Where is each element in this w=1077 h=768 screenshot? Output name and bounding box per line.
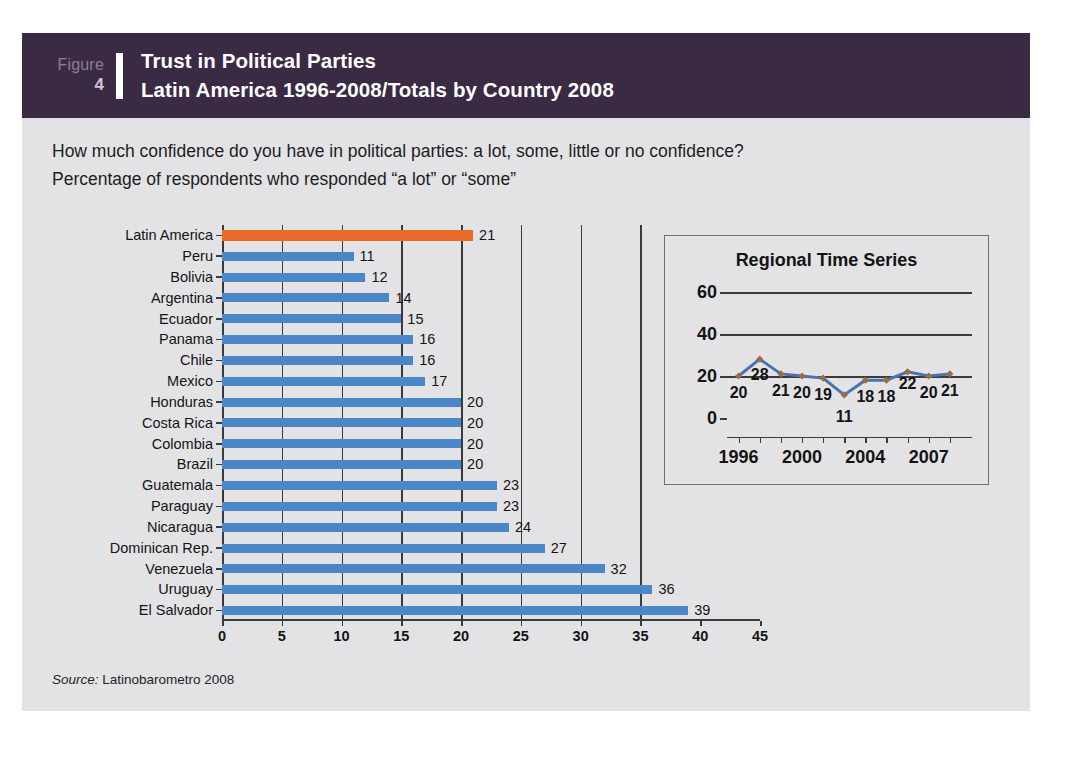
bar-row[interactable]: Venezuela32 xyxy=(222,558,760,579)
y-tick-mark xyxy=(216,318,222,320)
bar-row[interactable]: Paraguay23 xyxy=(222,496,760,517)
inset-x-tick-mark xyxy=(929,437,930,443)
bar-category-label: Guatemala xyxy=(142,478,213,493)
bar[interactable] xyxy=(222,460,461,469)
y-tick-mark xyxy=(216,255,222,257)
inset-y-tick-mark xyxy=(720,376,727,378)
inset-value-label: 18 xyxy=(856,389,874,405)
bar[interactable] xyxy=(222,585,652,594)
bar[interactable] xyxy=(222,335,413,344)
inset-x-axis: 1996200020042007 xyxy=(727,437,972,439)
bar-category-label: Venezuela xyxy=(145,562,213,577)
x-tick-label: 20 xyxy=(453,628,469,644)
bar-value-label: 20 xyxy=(467,457,483,472)
inset-data-point-marker[interactable] xyxy=(798,372,805,379)
x-tick-label: 35 xyxy=(632,628,648,644)
bar[interactable] xyxy=(222,252,354,261)
bar-category-label: Panama xyxy=(159,332,213,347)
figure-title-line-1: Trust in Political Parties xyxy=(141,47,614,75)
inset-x-tick-label: 2000 xyxy=(782,447,822,468)
bar-highlight[interactable] xyxy=(222,230,473,241)
bar[interactable] xyxy=(222,377,425,386)
bar-value-label: 24 xyxy=(515,520,531,535)
x-tick-label: 0 xyxy=(218,628,226,644)
x-tick-label: 15 xyxy=(393,628,409,644)
bar-value-label: 16 xyxy=(419,353,435,368)
bar-category-label: Peru xyxy=(182,249,213,264)
bar[interactable] xyxy=(222,314,401,323)
inset-y-tick-label: 20 xyxy=(697,367,717,385)
bar[interactable] xyxy=(222,544,545,553)
y-tick-mark xyxy=(216,589,222,591)
source-note: Source: Latinobarometro 2008 xyxy=(52,672,234,687)
x-tick-mark xyxy=(222,621,224,626)
inset-y-tick-label: 40 xyxy=(697,325,717,343)
bar[interactable] xyxy=(222,606,688,615)
bar-value-label: 39 xyxy=(694,603,710,618)
inset-x-tick-label: 2007 xyxy=(909,447,949,468)
bar-category-label: Bolivia xyxy=(170,270,213,285)
bar-row[interactable]: Uruguay36 xyxy=(222,579,760,600)
x-tick-mark xyxy=(760,621,762,626)
regional-time-series-chart: Regional Time Series 0204060 20282120191… xyxy=(664,235,989,485)
inset-value-label: 28 xyxy=(751,367,769,383)
inset-x-tick-mark xyxy=(760,437,761,443)
bar[interactable] xyxy=(222,481,497,490)
inset-y-tick-label: 0 xyxy=(707,409,717,427)
inset-value-label: 20 xyxy=(793,385,811,401)
bar[interactable] xyxy=(222,523,509,532)
inset-x-tick-mark xyxy=(781,437,782,443)
figure-header: Figure 4 Trust in Political Parties Lati… xyxy=(22,33,1030,118)
bar[interactable] xyxy=(222,273,365,282)
bar-category-label: Mexico xyxy=(167,374,213,389)
inset-value-label: 21 xyxy=(772,383,790,399)
bar-row[interactable]: Nicaragua24 xyxy=(222,517,760,538)
y-tick-mark xyxy=(216,422,222,424)
bar-category-label: Chile xyxy=(180,353,213,368)
bar-value-label: 20 xyxy=(467,416,483,431)
inset-plot-area: 0204060 2028212019111818222021 199620002… xyxy=(727,292,972,418)
bar-value-label: 17 xyxy=(431,374,447,389)
bar-value-label: 32 xyxy=(611,562,627,577)
figure-title-line-2: Latin America 1996-2008/Totals by Countr… xyxy=(141,76,614,104)
bar[interactable] xyxy=(222,418,461,427)
inset-chart-title: Regional Time Series xyxy=(665,250,988,271)
inset-data-point-marker[interactable] xyxy=(925,372,932,379)
inset-value-label: 19 xyxy=(814,387,832,403)
bar[interactable] xyxy=(222,502,497,511)
bar-category-label: Brazil xyxy=(177,457,213,472)
bar[interactable] xyxy=(222,564,605,573)
bar-value-label: 36 xyxy=(658,582,674,597)
bar-category-label: Honduras xyxy=(150,395,213,410)
bar-category-label: Paraguay xyxy=(151,499,213,514)
x-tick-label: 5 xyxy=(278,628,286,644)
y-tick-mark xyxy=(216,506,222,508)
bar-row[interactable]: Dominican Rep.27 xyxy=(222,538,760,559)
bar-row[interactable]: El Salvador39 xyxy=(222,600,760,621)
x-tick-mark xyxy=(640,621,642,626)
inset-x-tick-mark xyxy=(739,437,740,443)
inset-data-point-marker[interactable] xyxy=(946,370,953,377)
bar[interactable] xyxy=(222,439,461,448)
figure-title: Trust in Political Parties Latin America… xyxy=(141,47,614,104)
source-label: Source: xyxy=(52,672,99,687)
bar-value-label: 20 xyxy=(467,437,483,452)
bar[interactable] xyxy=(222,398,461,407)
x-tick-mark xyxy=(282,621,284,626)
bar[interactable] xyxy=(222,356,413,365)
bar-category-label: Ecuador xyxy=(159,312,213,327)
bar[interactable] xyxy=(222,293,389,302)
inset-y-tick-mark xyxy=(720,334,727,336)
bar-category-label: Dominican Rep. xyxy=(110,541,213,556)
inset-x-tick-mark xyxy=(844,437,845,443)
inset-x-tick-mark xyxy=(886,437,887,443)
bar-value-label: 16 xyxy=(419,332,435,347)
y-tick-mark xyxy=(216,526,222,528)
y-tick-mark xyxy=(216,276,222,278)
bar-value-label: 23 xyxy=(503,478,519,493)
inset-value-label: 22 xyxy=(899,376,917,392)
y-tick-mark xyxy=(216,297,222,299)
bar-category-label: Uruguay xyxy=(158,582,213,597)
y-tick-mark xyxy=(216,485,222,487)
x-tick-label: 30 xyxy=(573,628,589,644)
